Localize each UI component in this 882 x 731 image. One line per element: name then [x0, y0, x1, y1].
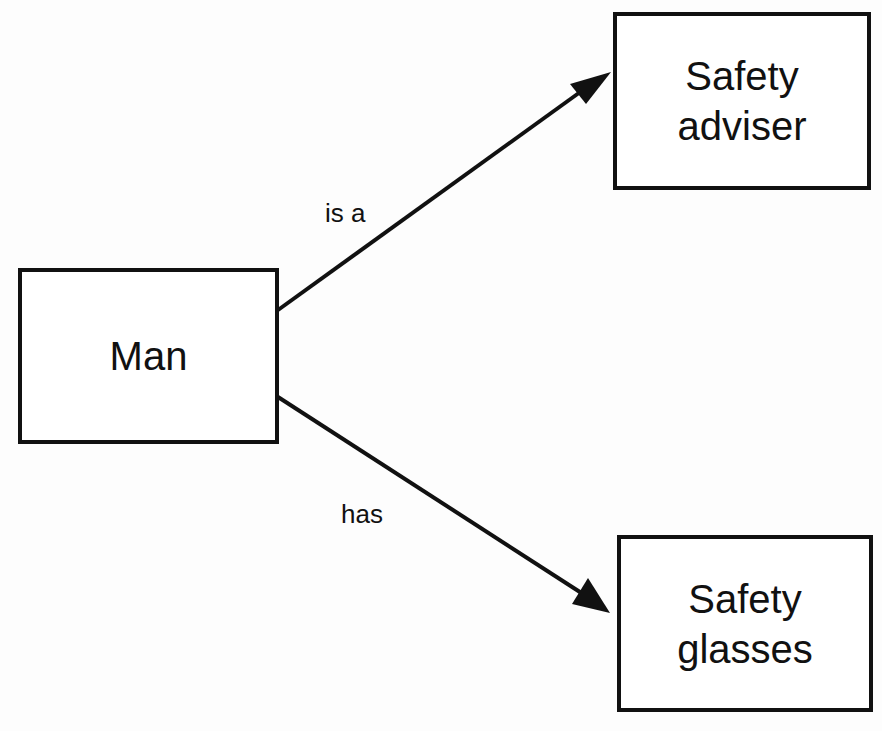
node-man: Man: [18, 268, 279, 444]
node-man-label: Man: [110, 331, 188, 381]
node-adviser-line1: Safety: [678, 51, 807, 101]
node-adviser-line2: adviser: [678, 101, 807, 151]
edge-label-has: has: [341, 499, 383, 530]
node-glasses-line1: Safety: [677, 574, 813, 624]
arrowhead-icon: [572, 578, 610, 613]
node-safety-glasses: Safety glasses: [617, 535, 873, 712]
node-safety-adviser: Safety adviser: [613, 12, 871, 190]
arrowhead-icon: [570, 72, 611, 104]
node-glasses-line2: glasses: [677, 624, 813, 674]
edge-is-a: [278, 72, 611, 310]
edge-label-is-a: is a: [325, 198, 365, 229]
edge-has: [278, 397, 610, 613]
